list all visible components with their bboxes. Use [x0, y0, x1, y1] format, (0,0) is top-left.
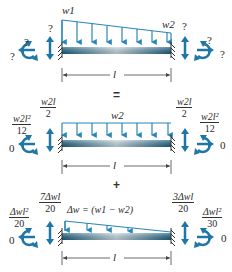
- left-vertical-reaction-fraction: w2l 2: [40, 97, 56, 119]
- right-vertical-reaction-label: ?: [182, 21, 187, 32]
- left-vertical-reaction-fraction: 7Δwl 20: [39, 192, 61, 214]
- left-horizontal-reaction-label: ?: [10, 51, 15, 62]
- right-horizontal-reaction-label: 0: [220, 140, 226, 151]
- load-label-delta-w: Δw = (w1 − w2): [67, 204, 133, 215]
- beam-diagram: [0, 0, 232, 272]
- right-vertical-reaction-fraction: w2l 2: [176, 97, 192, 119]
- left-moment-reaction-fraction: Δwl² 20: [9, 207, 29, 229]
- left-horizontal-reaction-label: 0: [9, 143, 15, 154]
- left-moment-reaction-fraction: w2l² 12: [12, 114, 31, 136]
- span-label: l: [113, 160, 116, 171]
- right-moment-reaction-fraction: w2l² 12: [200, 112, 219, 134]
- span-label: l: [113, 69, 116, 80]
- left-horizontal-reaction-label: 0: [9, 235, 15, 246]
- load-label-w1: w1: [62, 5, 75, 16]
- equals-sign: =: [113, 88, 120, 102]
- load-label-w2-uniform: w2: [111, 110, 124, 121]
- right-moment-reaction-fraction: Δwl² 30: [202, 207, 222, 229]
- left-moment-reaction-label: ?: [24, 37, 29, 48]
- right-horizontal-reaction-label: 0: [221, 233, 227, 244]
- right-moment-reaction-label: ?: [207, 35, 212, 46]
- left-vertical-reaction-label: ?: [48, 23, 53, 34]
- right-horizontal-reaction-label: ?: [220, 49, 225, 60]
- load-label-w2: w2: [162, 19, 175, 30]
- span-label: l: [113, 252, 116, 263]
- plus-sign: +: [113, 178, 120, 192]
- right-vertical-reaction-fraction: 3Δwl 20: [172, 192, 194, 214]
